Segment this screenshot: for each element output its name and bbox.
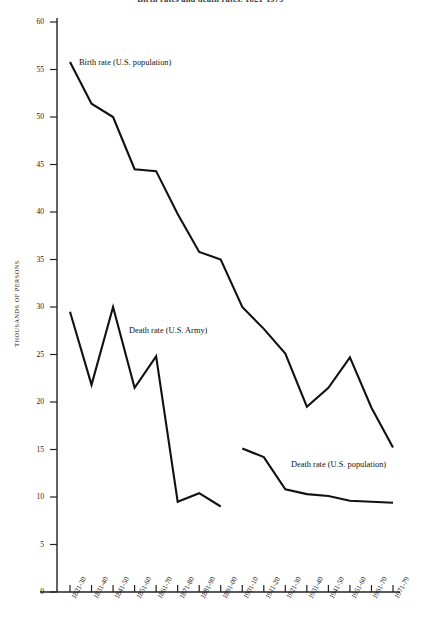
y-tick-label: 40: [22, 208, 44, 216]
y-tick-label: 5: [22, 541, 44, 549]
y-tick-label: 55: [22, 66, 44, 74]
annotation-death-rate-army: Death rate (U.S. Army): [129, 326, 207, 335]
y-tick-label: 15: [22, 446, 44, 454]
figure-caption: [8, 634, 413, 641]
annotation-birth-rate: Birth rate (U.S. population): [79, 58, 171, 67]
y-axis-ticks: [50, 22, 57, 592]
series-line-1: [70, 307, 221, 507]
y-tick-label: 35: [22, 256, 44, 264]
series-line-0: [70, 62, 393, 448]
y-tick-label: 0: [22, 588, 44, 596]
y-tick-label: 60: [22, 18, 44, 26]
series-lines: [70, 62, 393, 507]
y-tick-label: 10: [22, 493, 44, 501]
chart-root: Birth rates and death rates, 1821-1979 T…: [0, 0, 421, 641]
y-tick-label: 25: [22, 351, 44, 359]
y-tick-label: 30: [22, 303, 44, 311]
chart-plot-area: [0, 0, 421, 641]
series-line-2: [242, 449, 393, 503]
y-tick-label: 45: [22, 161, 44, 169]
annotation-death-rate-population: Death rate (U.S. population): [291, 460, 386, 469]
y-tick-label: 20: [22, 398, 44, 406]
y-tick-label: 50: [22, 113, 44, 121]
